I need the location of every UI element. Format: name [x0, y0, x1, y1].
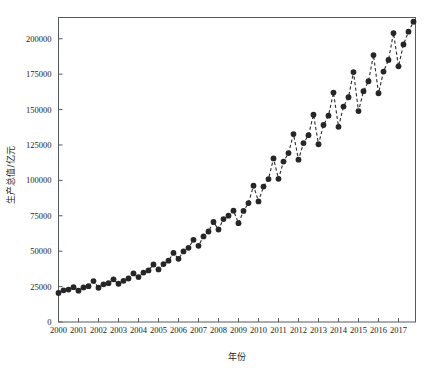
data-point: [411, 19, 417, 25]
data-point: [61, 287, 67, 293]
data-point: [271, 156, 277, 162]
data-point: [371, 52, 377, 58]
data-point: [326, 113, 332, 119]
y-tick-label: 75000: [30, 211, 51, 221]
x-tick-label: 2003: [110, 325, 127, 335]
y-tick-label: 150000: [26, 105, 52, 115]
data-point: [96, 285, 102, 291]
data-point: [376, 90, 382, 96]
data-point: [256, 199, 262, 205]
y-tick-label: 100000: [26, 175, 52, 185]
x-tick-label: 2001: [70, 325, 87, 335]
x-tick-label: 2007: [190, 325, 207, 335]
data-point: [241, 208, 247, 214]
data-point: [106, 280, 112, 286]
x-tick-label: 2006: [170, 325, 187, 335]
y-tick-label: 25000: [30, 282, 51, 292]
y-tick-label: 200000: [26, 34, 52, 44]
data-point: [251, 183, 257, 189]
data-point: [336, 124, 342, 130]
data-point: [191, 237, 197, 243]
data-point: [206, 229, 212, 235]
data-point: [216, 227, 222, 233]
x-tick-label: 2002: [90, 325, 107, 335]
x-tick-label: 2010: [250, 325, 267, 335]
x-tick-label: 2014: [330, 325, 348, 335]
x-tick-label: 2015: [350, 325, 367, 335]
data-point: [231, 208, 237, 214]
series-line-gdp: [59, 22, 414, 293]
data-point: [116, 281, 122, 287]
data-point: [111, 276, 117, 282]
data-point: [341, 104, 347, 110]
data-point: [86, 283, 92, 289]
data-point: [226, 213, 232, 219]
x-tick-label: 2008: [210, 325, 227, 335]
data-point: [166, 258, 172, 264]
data-point: [171, 250, 177, 256]
data-point: [76, 288, 82, 294]
data-point: [81, 285, 87, 291]
x-tick-label: 2017: [390, 325, 407, 335]
data-point: [301, 140, 307, 146]
data-point: [281, 159, 287, 165]
x-axis-ticks: 2000200120022003200420052006200720082009…: [50, 318, 407, 335]
data-point: [261, 184, 267, 190]
data-point: [136, 274, 142, 280]
data-point: [361, 88, 367, 94]
data-point: [331, 90, 337, 96]
data-point: [56, 290, 62, 296]
data-point: [276, 176, 282, 182]
series-markers-gdp: [56, 19, 417, 296]
data-point: [146, 268, 152, 274]
data-point: [291, 131, 297, 137]
y-tick-label: 125000: [26, 140, 52, 150]
data-point: [236, 220, 242, 226]
x-tick-label: 2009: [230, 325, 247, 335]
x-tick-label: 2005: [150, 325, 167, 335]
chart-container: 0250005000075000100000125000150000175000…: [0, 0, 442, 374]
data-point: [121, 278, 127, 284]
x-tick-label: 2004: [130, 325, 148, 335]
data-point: [311, 112, 317, 118]
data-point: [266, 176, 272, 182]
data-point: [356, 108, 362, 114]
data-point: [196, 243, 202, 249]
data-point: [126, 276, 132, 282]
data-point: [401, 42, 407, 48]
data-point: [406, 29, 412, 35]
data-point: [176, 256, 182, 262]
data-point: [386, 57, 392, 63]
y-axis-ticks: 0250005000075000100000125000150000175000…: [26, 34, 63, 327]
data-point: [211, 219, 217, 225]
gdp-quarterly-line-chart: 0250005000075000100000125000150000175000…: [0, 0, 442, 374]
data-point: [306, 132, 312, 138]
data-point: [91, 278, 97, 284]
data-point: [316, 141, 322, 147]
data-point: [181, 249, 187, 255]
x-tick-label: 2013: [310, 325, 327, 335]
data-point: [101, 281, 107, 287]
data-point: [221, 216, 227, 222]
data-point: [366, 78, 372, 84]
y-tick-label: 50000: [30, 246, 51, 256]
data-point: [71, 284, 77, 290]
x-axis-title: 年份: [228, 351, 246, 362]
y-axis-title: 生产总值/亿元: [5, 146, 16, 203]
y-tick-label: 175000: [26, 69, 52, 79]
data-point: [321, 122, 327, 128]
data-point: [156, 267, 162, 273]
data-point: [66, 287, 72, 293]
data-point: [186, 245, 192, 251]
data-series: [56, 19, 417, 296]
data-point: [161, 261, 167, 267]
data-point: [201, 234, 207, 240]
data-point: [286, 150, 292, 156]
data-point: [296, 157, 302, 163]
data-point: [351, 69, 357, 75]
data-point: [391, 30, 397, 36]
data-point: [381, 69, 387, 75]
x-tick-label: 2016: [370, 325, 387, 335]
x-tick-label: 2011: [270, 325, 287, 335]
data-point: [396, 63, 402, 69]
